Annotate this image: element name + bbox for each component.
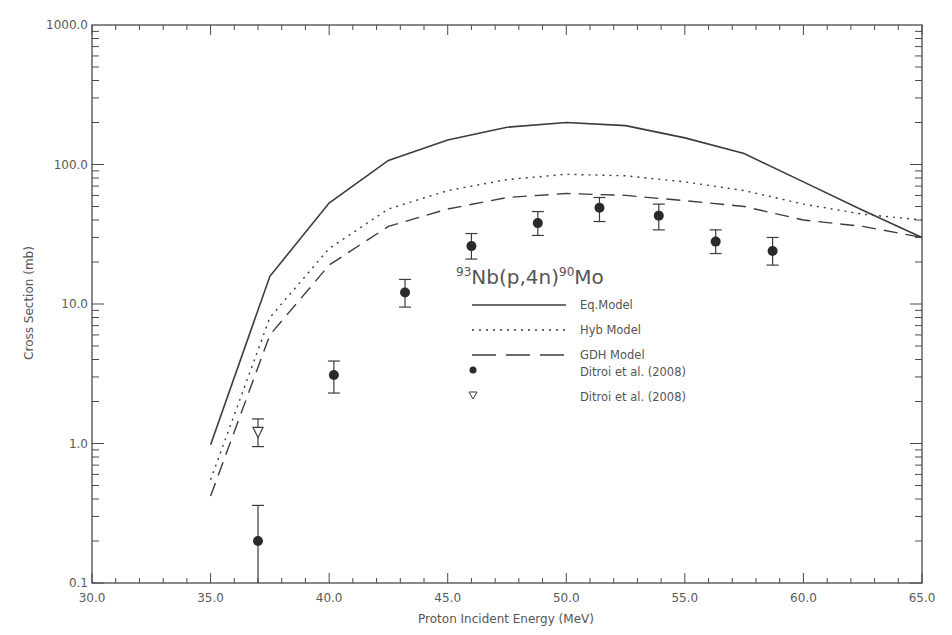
data-point bbox=[533, 218, 543, 228]
legend-label: Ditroi et al. (2008) bbox=[580, 365, 686, 379]
x-tick-label: 40.0 bbox=[316, 591, 343, 605]
cross-section-chart: 30.035.040.045.050.055.060.065.00.11.010… bbox=[0, 0, 952, 635]
legend-label: GDH Model bbox=[580, 348, 645, 362]
y-tick-label: 1000.0 bbox=[46, 18, 88, 32]
legend-label: Hyb Model bbox=[580, 323, 641, 337]
y-tick-label: 0.1 bbox=[69, 576, 88, 590]
data-point bbox=[768, 246, 778, 256]
reaction-label: 93Nb(p,4n)90Mo bbox=[456, 265, 604, 289]
data-point bbox=[253, 536, 263, 546]
x-tick-label: 65.0 bbox=[909, 591, 936, 605]
data-point bbox=[711, 237, 721, 247]
data-point bbox=[466, 241, 476, 251]
plot-frame bbox=[92, 25, 922, 583]
x-tick-label: 50.0 bbox=[553, 591, 580, 605]
x-tick-label: 55.0 bbox=[671, 591, 698, 605]
data-point-triangle bbox=[253, 427, 263, 437]
plot-axes: 30.035.040.045.050.055.060.065.00.11.010… bbox=[46, 18, 935, 605]
legend-label: Ditroi et al. (2008) bbox=[580, 390, 686, 404]
y-tick-label: 1.0 bbox=[69, 437, 88, 451]
legend: 93Nb(p,4n)90Mo Eq.ModelHyb ModelGDH Mode… bbox=[456, 265, 686, 404]
y-tick-label: 100.0 bbox=[54, 158, 88, 172]
data-point bbox=[594, 203, 604, 213]
y-axis-title: Cross Section (mb) bbox=[22, 246, 36, 360]
model-curves bbox=[211, 123, 922, 497]
x-tick-label: 35.0 bbox=[197, 591, 224, 605]
data-point bbox=[654, 211, 664, 221]
y-tick-label: 10.0 bbox=[61, 297, 88, 311]
x-tick-label: 45.0 bbox=[434, 591, 461, 605]
legend-label: Eq.Model bbox=[580, 298, 633, 312]
legend-swatch-triangle bbox=[469, 392, 477, 399]
x-tick-label: 60.0 bbox=[790, 591, 817, 605]
data-point bbox=[329, 370, 339, 380]
experimental-points bbox=[252, 198, 779, 583]
data-point bbox=[400, 287, 410, 297]
curve-hyb-model bbox=[211, 174, 922, 479]
legend-swatch-circle bbox=[470, 367, 477, 374]
x-axis-title: Proton Incident Energy (MeV) bbox=[418, 612, 594, 626]
curve-gdh-model bbox=[211, 194, 922, 497]
curve-eq-model bbox=[211, 123, 922, 445]
x-tick-label: 30.0 bbox=[79, 591, 106, 605]
